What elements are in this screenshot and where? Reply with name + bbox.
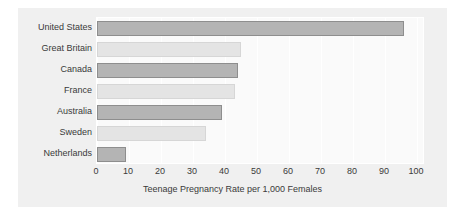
bar-united-states[interactable] [97, 21, 404, 36]
xtick-label-20: 20 [155, 166, 165, 176]
xtick-label-90: 90 [379, 166, 389, 176]
xtick-label-100: 100 [408, 166, 423, 176]
value-axis: 0102030405060708090100 [96, 166, 424, 180]
bar-row [97, 21, 425, 36]
bar-row [97, 126, 425, 141]
bar-row [97, 105, 425, 120]
category-label-great-britain: Great Britain [18, 43, 92, 54]
category-label-sweden: Sweden [18, 127, 92, 138]
xtick-label-0: 0 [93, 166, 98, 176]
plot-area [96, 17, 424, 164]
xtick-label-40: 40 [219, 166, 229, 176]
xtick-label-80: 80 [347, 166, 357, 176]
category-label-canada: Canada [18, 64, 92, 75]
bar-netherlands[interactable] [97, 147, 126, 162]
bar-row [97, 84, 425, 99]
category-label-united-states: United States [18, 22, 92, 33]
bar-canada[interactable] [97, 63, 238, 78]
bar-row [97, 42, 425, 57]
xtick-label-10: 10 [123, 166, 133, 176]
bar-row [97, 147, 425, 162]
xtick-label-70: 70 [315, 166, 325, 176]
x-axis-label: Teenage Pregnancy Rate per 1,000 Females [18, 184, 447, 194]
category-label-france: France [18, 85, 92, 96]
bar-sweden[interactable] [97, 126, 206, 141]
bar-row [97, 63, 425, 78]
bar-france[interactable] [97, 84, 235, 99]
category-axis: United StatesGreat BritainCanadaFranceAu… [18, 17, 92, 164]
category-label-australia: Australia [18, 106, 92, 117]
xtick-label-30: 30 [187, 166, 197, 176]
xtick-label-50: 50 [251, 166, 261, 176]
category-label-netherlands: Netherlands [18, 148, 92, 159]
xtick-label-60: 60 [283, 166, 293, 176]
chart-figure: United StatesGreat BritainCanadaFranceAu… [0, 0, 461, 220]
chart-panel: United StatesGreat BritainCanadaFranceAu… [18, 8, 447, 207]
bar-great-britain[interactable] [97, 42, 241, 57]
bar-australia[interactable] [97, 105, 222, 120]
